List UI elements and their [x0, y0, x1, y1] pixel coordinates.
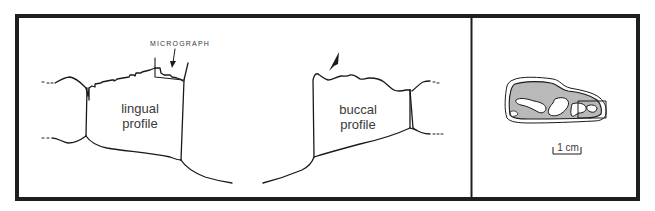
lingual-profile-label: lingual profile: [110, 101, 170, 131]
enamel-infold-4: [587, 105, 597, 112]
enamel-infold-5: [510, 111, 518, 116]
arrowhead-icon: [329, 52, 339, 71]
neighbor-dots-upper-right: [433, 82, 439, 83]
lingual-label-line1: lingual: [110, 101, 170, 116]
lingual-label-line2: profile: [110, 116, 170, 131]
micrograph-arrow-shaft: [173, 49, 175, 63]
arrow-down-icon: [170, 61, 176, 68]
buccal-profile-label: buccal profile: [326, 102, 390, 132]
neighbor-dots-upper-left: [42, 82, 53, 83]
occlusal-tooth-drawing: [505, 77, 606, 123]
buccal-label-line1: buccal: [326, 102, 390, 117]
micrograph-box: [155, 58, 183, 80]
buccal-label-line2: profile: [326, 117, 390, 132]
tooth-profile-figure: lingual profile buccal profile MICROGRAP…: [0, 0, 655, 211]
scale-bar-label: 1 cm: [553, 140, 583, 155]
micrograph-label: MICROGRAPH: [140, 36, 220, 51]
